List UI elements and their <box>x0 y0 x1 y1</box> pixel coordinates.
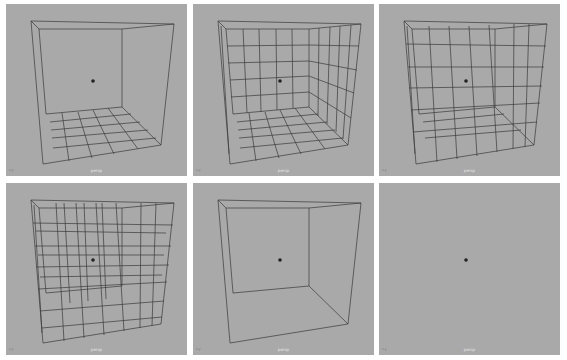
viewport-1[interactable]: x.y persp <box>6 4 187 176</box>
viewport-6[interactable]: x.y persp <box>379 183 560 355</box>
camera-label: persp <box>193 168 374 173</box>
camera-label: persp <box>6 347 187 352</box>
viewport-3[interactable]: x.y persp <box>379 4 560 176</box>
wireframe-box-volume-grid <box>6 183 187 355</box>
camera-label: persp <box>193 347 374 352</box>
wireframe-box <box>193 183 374 355</box>
origin-marker <box>379 183 560 355</box>
wireframe-box-wall-grid <box>193 4 374 176</box>
viewport-5[interactable]: x.y persp <box>193 183 374 355</box>
camera-label: persp <box>379 168 560 173</box>
wireframe-box-wall-grid <box>379 4 560 176</box>
wireframe-box-floor-grid <box>6 4 187 176</box>
camera-label: persp <box>379 347 560 352</box>
camera-label: persp <box>6 168 187 173</box>
viewport-4[interactable]: x.y persp <box>6 183 187 355</box>
viewport-2[interactable]: x.y persp <box>193 4 374 176</box>
